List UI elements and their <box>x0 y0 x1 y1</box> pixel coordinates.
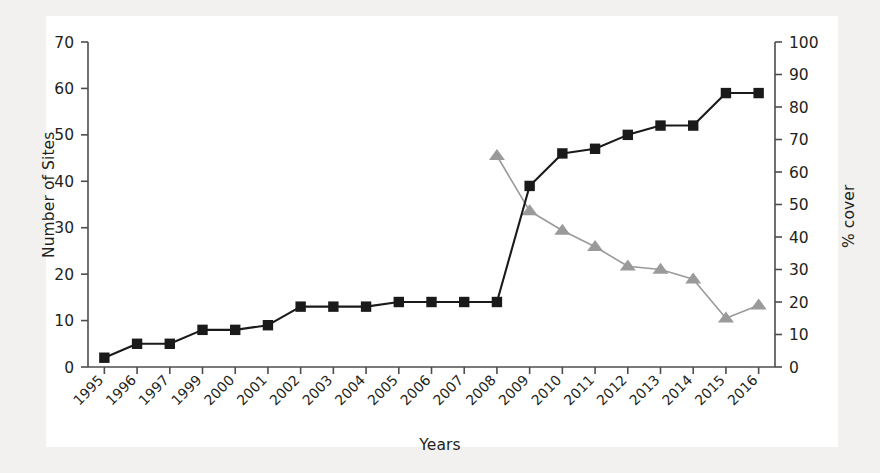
x-axis-tick-label: 2004 <box>332 372 369 409</box>
axis-lines <box>88 42 775 367</box>
y-axis-left-ticks: 010203040506070 <box>54 34 88 377</box>
x-axis-tick-label: 2001 <box>234 372 271 409</box>
data-point-marker-square <box>165 339 175 349</box>
y-axis-right-tick-label: 20 <box>789 294 809 312</box>
y-axis-right-tick-label: 30 <box>789 261 809 279</box>
data-point-marker-triangle <box>620 259 636 270</box>
y-axis-right-tick-label: 80 <box>789 99 809 117</box>
x-axis-ticks: 1995199619971999200020012002200320042005… <box>70 367 761 408</box>
x-axis-tick-label: 2016 <box>724 372 761 409</box>
y-axis-right-tick-label: 60 <box>789 164 809 182</box>
x-axis-tick-label: 2015 <box>692 372 729 409</box>
y-axis-left-tick-label: 70 <box>54 34 74 52</box>
data-point-marker-square <box>394 297 404 307</box>
chart-figure: 010203040506070 0102030405060708090100 1… <box>0 0 880 473</box>
y-axis-right-tick-label: 40 <box>789 229 809 247</box>
y-axis-right-title: % cover <box>840 185 858 248</box>
x-axis-tick-label: 1999 <box>168 372 205 409</box>
data-point-marker-square <box>263 320 273 330</box>
y-axis-right-tick-label: 90 <box>789 66 809 84</box>
y-axis-left-title: Number of Sites <box>40 132 58 258</box>
x-axis-tick-label: 2010 <box>528 372 565 409</box>
data-point-marker-triangle <box>718 311 734 322</box>
y-axis-right-tick-label: 10 <box>789 326 809 344</box>
data-point-marker-square <box>721 88 731 98</box>
x-axis-tick-label: 2012 <box>593 372 630 409</box>
x-axis-tick-label: 2013 <box>626 372 663 409</box>
x-axis-title: Years <box>0 436 880 454</box>
data-point-marker-square <box>753 88 763 98</box>
data-point-marker-square <box>557 148 567 158</box>
data-point-marker-square <box>132 339 142 349</box>
data-point-marker-square <box>688 120 698 130</box>
data-point-marker-square <box>295 301 305 311</box>
data-point-marker-square <box>655 120 665 130</box>
series-number-of-sites <box>99 88 764 363</box>
x-axis-tick-label: 2000 <box>201 372 238 409</box>
x-axis-tick-label: 1996 <box>103 372 140 409</box>
x-axis-tick-label: 1997 <box>135 372 172 409</box>
plot-canvas: 010203040506070 0102030405060708090100 1… <box>0 0 880 473</box>
data-point-marker-square <box>197 325 207 335</box>
y-axis-right-tick-label: 100 <box>789 34 819 52</box>
data-point-marker-triangle <box>489 149 505 160</box>
x-axis-tick-label: 2011 <box>561 372 598 409</box>
y-axis-right-tick-label: 50 <box>789 196 809 214</box>
data-point-marker-square <box>459 297 469 307</box>
x-axis-tick-label: 2006 <box>397 372 434 409</box>
y-axis-left-tick-label: 10 <box>54 312 74 330</box>
x-axis-tick-label: 2014 <box>659 372 696 409</box>
data-point-marker-triangle <box>554 224 570 235</box>
data-point-marker-square <box>230 325 240 335</box>
data-point-marker-triangle <box>587 240 603 251</box>
data-point-marker-square <box>492 297 502 307</box>
y-axis-right-ticks: 0102030405060708090100 <box>775 34 819 377</box>
x-axis-tick-label: 2007 <box>430 372 467 409</box>
data-point-marker-square <box>426 297 436 307</box>
y-axis-left-tick-label: 0 <box>64 359 74 377</box>
y-axis-right-tick-label: 70 <box>789 131 809 149</box>
x-axis-tick-label: 2008 <box>463 372 500 409</box>
x-axis-tick-label: 2009 <box>495 372 532 409</box>
series-percent-cover <box>489 149 767 323</box>
x-axis-tick-label: 2002 <box>266 372 303 409</box>
y-axis-right-tick-label: 0 <box>789 359 799 377</box>
x-axis-tick-label: 2005 <box>364 372 401 409</box>
data-point-marker-square <box>99 353 109 363</box>
y-axis-left-tick-label: 20 <box>54 266 74 284</box>
data-point-marker-square <box>623 130 633 140</box>
x-axis-tick-label: 2003 <box>299 372 336 409</box>
data-point-marker-square <box>328 301 338 311</box>
x-axis-tick-label: 1995 <box>70 372 107 409</box>
data-point-marker-square <box>590 144 600 154</box>
data-point-marker-square <box>524 181 534 191</box>
series-line <box>104 93 758 358</box>
y-axis-left-tick-label: 60 <box>54 80 74 98</box>
data-point-marker-triangle <box>751 298 767 309</box>
data-point-marker-square <box>361 301 371 311</box>
